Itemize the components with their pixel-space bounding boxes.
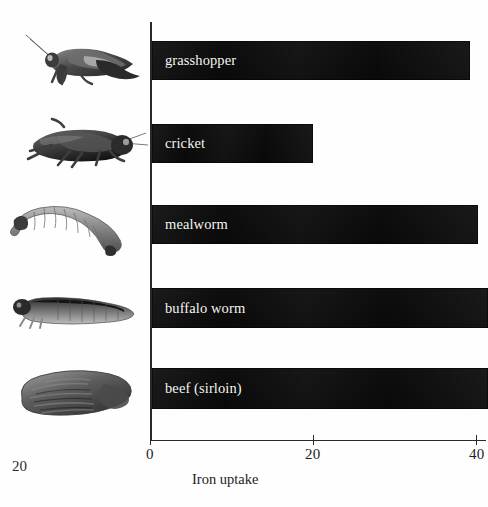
x-tick-0 bbox=[150, 435, 151, 445]
page-number: 20 bbox=[12, 458, 27, 475]
bar-label-buffalo-worm: buffalo worm bbox=[152, 300, 245, 317]
beef-sirloin-photo bbox=[0, 362, 150, 430]
bar-chart-plot: 0 20 40 grasshopper cricket mealworm buf… bbox=[150, 22, 486, 440]
x-tick-label-0: 0 bbox=[146, 446, 154, 463]
specimen-photo-column bbox=[0, 0, 150, 440]
grasshopper-photo bbox=[0, 30, 150, 96]
x-tick-label-40: 40 bbox=[469, 446, 484, 463]
x-axis-title: Iron uptake bbox=[150, 471, 486, 488]
bar-grasshopper: grasshopper bbox=[152, 41, 470, 80]
buffalo-worm-photo bbox=[0, 288, 150, 336]
mealworm-photo bbox=[0, 196, 150, 258]
bar-buffalo-worm: buffalo worm bbox=[152, 288, 488, 328]
bar-label-grasshopper: grasshopper bbox=[152, 52, 236, 69]
x-tick-40 bbox=[476, 435, 477, 445]
bar-mealworm: mealworm bbox=[152, 205, 478, 244]
bar-cricket: cricket bbox=[152, 124, 313, 163]
bar-label-cricket: cricket bbox=[152, 135, 205, 152]
cricket-photo bbox=[0, 115, 150, 177]
x-tick-label-20: 20 bbox=[305, 446, 320, 463]
x-tick-20 bbox=[313, 435, 314, 445]
bar-beef-sirloin: beef (sirloin) bbox=[152, 368, 488, 409]
x-axis-line bbox=[150, 440, 486, 441]
bar-label-mealworm: mealworm bbox=[152, 216, 228, 233]
bar-label-beef-sirloin: beef (sirloin) bbox=[152, 380, 242, 397]
